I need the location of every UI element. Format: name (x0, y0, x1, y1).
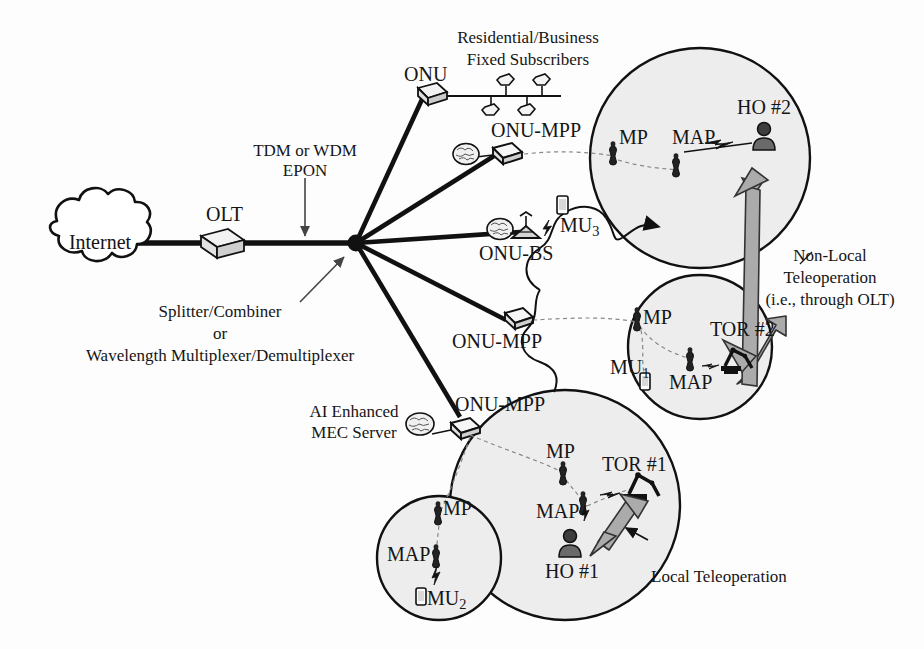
splitter-leader-arrow (300, 257, 344, 302)
mec-label-line1: AI Enhanced (309, 402, 398, 421)
cell-circle-ho2 (590, 48, 810, 268)
epon-label-line2: EPON (283, 161, 327, 180)
mu2-label: MU2 (427, 587, 466, 612)
nonlocal-label-line1: Non-Local (793, 246, 867, 265)
onu-mpp-lower-label: ONU-MPP (455, 393, 545, 415)
subscriber-bus (447, 86, 561, 106)
mu1-label-sub: 1 (642, 365, 649, 381)
mu1-label-base: MU (610, 356, 642, 378)
onu-mpp-upper-label: ONU-MPP (491, 119, 581, 141)
mu3-phone-icon (557, 196, 568, 214)
tor1-label: TOR #1 (602, 453, 667, 475)
mu3-label-base: MU (560, 214, 592, 236)
mu2-phone-icon (416, 588, 426, 605)
epon-label-line1: TDM or WDM (253, 141, 357, 160)
map-label-cell4: MAP (387, 543, 430, 565)
subscriber-node (533, 74, 550, 85)
ho2-label: HO #2 (737, 96, 791, 118)
mu2-label-sub: 2 (459, 596, 466, 612)
mu2-label-base: MU (427, 587, 459, 609)
mp-label-cell2: MP (643, 306, 672, 328)
subscribers-label-line1: Residential/Business (457, 28, 599, 47)
diagram-canvas: Internet OLT ONU Residential/Business Fi… (0, 0, 924, 649)
mp-label-cell3: MP (546, 440, 575, 462)
onu-bs-label: ONU-BS (479, 242, 553, 264)
mec-label-line2: MEC Server (311, 423, 396, 442)
mp-label-cell4: MP (443, 497, 472, 519)
splitter-label-line3: Wavelength Multiplexer/Demultiplexer (86, 346, 354, 365)
splitter-label-line1: Splitter/Combiner (159, 302, 282, 321)
subscribers-label-line2: Fixed Subscribers (467, 50, 589, 69)
ho1-label: HO #1 (545, 560, 599, 582)
splitter-label-line2: or (213, 324, 227, 343)
subscriber-node (497, 74, 514, 85)
map-label-cell3: MAP (536, 500, 579, 522)
subscriber-node (518, 104, 535, 115)
mu3-label-sub: 3 (592, 223, 599, 239)
olt-icon (201, 229, 244, 258)
nonlocal-label-line3: (i.e., through OLT) (765, 290, 894, 309)
mp-label-cell1: MP (619, 126, 648, 148)
subscriber-node (482, 104, 499, 115)
local-teleop-label: Local Teleoperation (651, 567, 787, 586)
mu3-label: MU3 (560, 214, 599, 239)
onu-bs-icon (512, 212, 540, 238)
tor2-label: TOR #2 (710, 318, 775, 340)
mu1-label: MU1 (610, 356, 649, 381)
mec-brain-icon-lower (406, 413, 434, 435)
olt-label: OLT (206, 203, 243, 225)
map-label-cell1: MAP (672, 126, 715, 148)
onu-mpp-middle-label: ONU-MPP (452, 330, 542, 352)
map-label-cell2: MAP (669, 371, 712, 393)
mec-brain-icon-bs (487, 219, 516, 240)
mec-brain-icon-upper (453, 144, 479, 165)
nonlocal-label-line2: Teleoperation (783, 268, 876, 287)
onu-label: ONU (404, 63, 447, 85)
internet-label: Internet (69, 231, 131, 253)
